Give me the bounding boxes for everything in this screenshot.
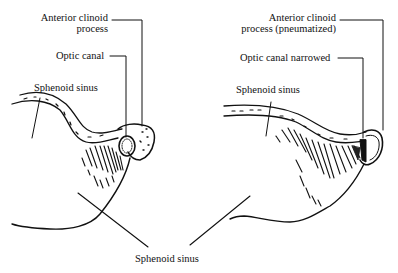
left-anterior-clinoid-line1: Anterior clinoid — [30, 12, 108, 23]
left-anterior-clinoid-line2: process — [30, 23, 108, 34]
left-optic-canal-label: Optic canal — [56, 50, 104, 61]
left-sphenoid-sinus-label: Sphenoid sinus — [34, 82, 98, 93]
shared-sphenoid-sinus-label: Sphenoid sinus — [135, 253, 199, 264]
right-anterior-clinoid-line2: process (pneumatized) — [236, 23, 336, 34]
anatomical-diagram: Anterior clinoid process Optic canal Sph… — [0, 0, 398, 273]
right-sphenoid-sinus-label: Sphenoid sinus — [236, 84, 300, 95]
left-anterior-clinoid-label: Anterior clinoid process — [30, 12, 108, 34]
right-anterior-clinoid-line1: Anterior clinoid — [236, 12, 336, 23]
right-optic-canal-narrowed-label: Optic canal narrowed — [240, 52, 330, 63]
diagram-drawing — [0, 0, 398, 273]
right-anterior-clinoid-label: Anterior clinoid process (pneumatized) — [236, 12, 336, 34]
